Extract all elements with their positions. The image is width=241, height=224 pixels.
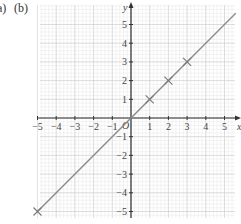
y-tick-label: −5 (116, 206, 127, 217)
y-tick-label: 5 (122, 19, 127, 30)
y-axis-arrow-icon (129, 2, 134, 8)
y-tick-label: 2 (122, 75, 127, 86)
x-axis-arrow-icon (235, 116, 241, 121)
x-tick-label: −4 (51, 121, 62, 132)
y-axis-label: y (122, 2, 128, 13)
x-tick-label: 1 (147, 121, 152, 132)
line-chart: xyO−5−4−3−2−112345−5−4−3−2−112345 (0, 0, 241, 224)
y-tick-label: −2 (116, 150, 127, 161)
x-tick-label: −2 (88, 121, 99, 132)
x-tick-label: −5 (32, 121, 43, 132)
y-tick-label: 1 (122, 94, 127, 105)
x-tick-label: 5 (222, 121, 227, 132)
y-tick-label: −3 (116, 169, 127, 180)
x-tick-label: 3 (185, 121, 190, 132)
y-tick-label: 4 (122, 38, 127, 49)
y-tick-label: −4 (116, 187, 127, 198)
y-tick-label: −1 (116, 131, 127, 142)
x-axis-label: x (236, 121, 241, 132)
x-tick-label: 2 (166, 121, 171, 132)
x-tick-label: 4 (203, 121, 208, 132)
y-tick-label: 3 (122, 56, 127, 67)
x-tick-label: −3 (70, 121, 81, 132)
